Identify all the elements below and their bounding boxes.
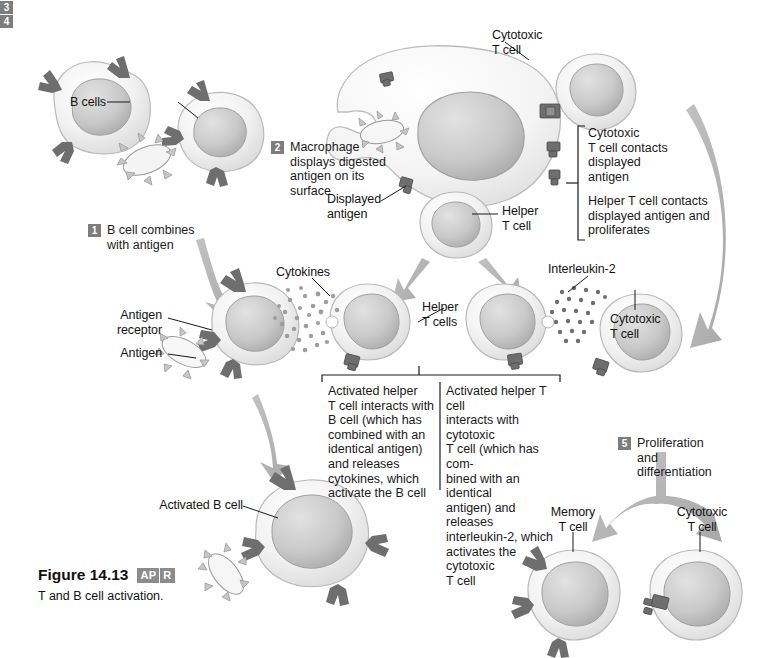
apr-badge: AP R [137, 568, 174, 583]
figure-canvas: B cells Cytotoxic T cell Displayed antig… [0, 0, 761, 658]
apr-badge-right: R [160, 568, 174, 583]
label-cytotoxic-t-cell-mid: Cytotoxic T cell [610, 312, 661, 341]
bracket-step-3 [566, 126, 585, 240]
step-2: 2 Macrophage displays digested antigen o… [271, 140, 386, 198]
step-2-text: Macrophage displays digested antigen on … [290, 140, 386, 198]
label-activated-b-cell: Activated B cell [143, 498, 243, 513]
label-helper-t-cells: Helper T cells [422, 300, 458, 329]
label-b-cells: B cells [20, 95, 106, 110]
bracket-step-4 [322, 366, 560, 382]
step-4-right-text: Activated helper T cell interacts with c… [446, 384, 564, 588]
step-1-text: B cell combines with antigen [107, 223, 195, 252]
tcr-receptor-icon [507, 353, 522, 369]
cell-b-cell-2 [162, 80, 264, 187]
step-3-part-b-text: Helper T cell contacts displayed antigen… [588, 194, 758, 238]
tcr-receptor-icon [540, 104, 560, 118]
cell-b-cell-1 [38, 56, 150, 164]
label-interleukin-2: Interleukin-2 [548, 262, 616, 277]
step-number-2: 2 [271, 141, 284, 154]
tcr-receptor-icon [344, 353, 360, 370]
interleukin-2-particles [550, 286, 607, 343]
caption-title-row: Figure 14.13 AP R [38, 566, 175, 584]
step-4-left-text: Activated helper T cell interacts with B… [328, 384, 440, 501]
figure-subtitle: T and B cell activation. [38, 589, 175, 603]
step-3-part-a-text: Cytotoxic T cell contacts displayed anti… [588, 126, 756, 184]
cell-cytotoxic-t-bottom [643, 550, 742, 640]
label-cytotoxic-t-cell-top: Cytotoxic T cell [492, 28, 543, 57]
cell-helper-t-left [326, 284, 410, 371]
label-cytokines: Cytokines [276, 265, 330, 280]
cell-helper-t-right [466, 284, 554, 370]
label-antigen: Antigen [62, 346, 162, 361]
antigen-particle-activated [198, 543, 250, 601]
step-5: 5 Proliferation and differentiation [618, 436, 738, 480]
figure-caption: Figure 14.13 AP R T and B cell activatio… [38, 566, 175, 603]
label-cytotoxic-t-cell-bottom: Cytotoxic T cell [664, 505, 740, 534]
figure-number: Figure 14.13 [38, 566, 128, 584]
cell-b-cell-antigen-bound [155, 268, 299, 379]
step-number-5: 5 [618, 437, 631, 450]
step-1: 1 B cell combines with antigen [88, 223, 238, 252]
step-number-1: 1 [88, 224, 101, 237]
cell-helper-t-center [420, 192, 492, 258]
step-5-text: Proliferation and differentiation [637, 436, 712, 480]
apr-badge-left: AP [137, 568, 159, 583]
label-antigen-receptor: Antigen receptor [62, 308, 162, 337]
tcr-receptor-icon [592, 358, 609, 376]
label-helper-t-cell: Helper T cell [502, 204, 538, 233]
